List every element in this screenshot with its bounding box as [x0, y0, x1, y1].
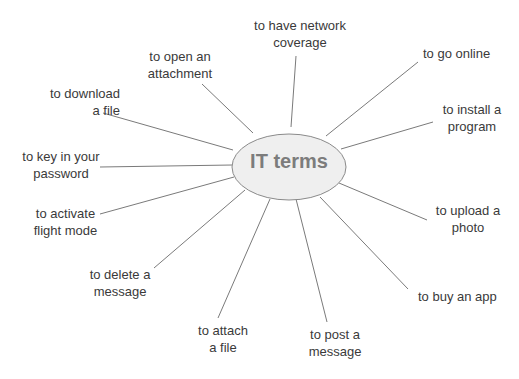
- center-title: IT terms: [232, 150, 346, 173]
- branch-key-in-password: to key in your password: [16, 148, 106, 182]
- mind-map: IT terms to have network coverage to go …: [0, 0, 519, 379]
- branch-download-file: to download a file: [20, 85, 120, 119]
- branch-install-program: to install a program: [432, 101, 512, 135]
- branch-delete-message: to delete a message: [80, 266, 160, 300]
- branch-upload-photo: to upload a photo: [428, 202, 508, 236]
- branch-open-attachment: to open an attachment: [140, 48, 220, 82]
- branch-post-message: to post a message: [300, 326, 370, 360]
- branch-network-coverage: to have network coverage: [245, 17, 355, 51]
- branch-go-online: to go online: [423, 45, 490, 62]
- branch-attach-file: to attach a file: [188, 322, 258, 356]
- branch-activate-flight-mode: to activate flight mode: [28, 205, 103, 239]
- branch-buy-app: to buy an app: [418, 288, 497, 305]
